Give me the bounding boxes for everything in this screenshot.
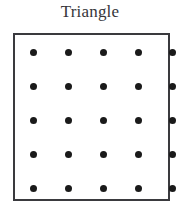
grid-dot[interactable] bbox=[65, 49, 72, 56]
grid-dot[interactable] bbox=[169, 49, 176, 56]
grid-dot[interactable] bbox=[135, 49, 142, 56]
grid-dot[interactable] bbox=[100, 185, 107, 192]
grid-dot[interactable] bbox=[65, 117, 72, 124]
dot-layer bbox=[15, 35, 168, 199]
grid-dot[interactable] bbox=[169, 185, 176, 192]
grid-dot[interactable] bbox=[169, 151, 176, 158]
grid-dot[interactable] bbox=[100, 117, 107, 124]
grid-dot[interactable] bbox=[65, 185, 72, 192]
grid-dot[interactable] bbox=[135, 151, 142, 158]
grid-dot[interactable] bbox=[30, 117, 37, 124]
grid-dot[interactable] bbox=[135, 83, 142, 90]
grid-dot[interactable] bbox=[30, 49, 37, 56]
grid-dot[interactable] bbox=[100, 83, 107, 90]
grid-dot[interactable] bbox=[65, 83, 72, 90]
dot-grid-figure: Triangle bbox=[0, 0, 180, 213]
dot-grid-box bbox=[13, 33, 170, 201]
grid-dot[interactable] bbox=[169, 117, 176, 124]
grid-dot[interactable] bbox=[100, 151, 107, 158]
grid-dot[interactable] bbox=[169, 83, 176, 90]
grid-dot[interactable] bbox=[30, 83, 37, 90]
grid-dot[interactable] bbox=[100, 49, 107, 56]
grid-dot[interactable] bbox=[135, 185, 142, 192]
grid-dot[interactable] bbox=[30, 185, 37, 192]
grid-dot[interactable] bbox=[30, 151, 37, 158]
grid-dot[interactable] bbox=[65, 151, 72, 158]
page-title: Triangle bbox=[0, 2, 180, 22]
grid-dot[interactable] bbox=[135, 117, 142, 124]
